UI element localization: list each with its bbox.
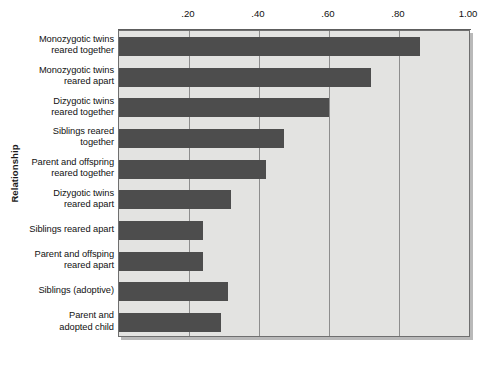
category-label-line: Parent and offspring [4, 157, 114, 168]
category-label-line: reared apart [4, 76, 114, 87]
category-label-line: reared together [4, 168, 114, 179]
x-tick-label: .80 [391, 8, 404, 19]
bar [119, 282, 228, 301]
category-label-line: Parent and offsping [4, 249, 114, 260]
bar [119, 98, 329, 117]
category-label: Siblings rearedtogether [4, 126, 114, 148]
bar [119, 252, 203, 271]
category-label: Monozygotic twinsreared apart [4, 65, 114, 87]
category-label-line: Parent and [4, 310, 114, 321]
bar [119, 160, 266, 179]
bar [119, 68, 371, 87]
category-label-line: Siblings reared apart [4, 224, 114, 235]
category-label-line: reared apart [4, 260, 114, 271]
gridline-80 [399, 31, 400, 336]
bar [119, 37, 420, 56]
category-label: Parent andadopted child [4, 310, 114, 332]
category-label: Parent and offspingreared apart [4, 249, 114, 271]
category-label-line: Siblings (adoptive) [4, 285, 114, 296]
category-label-line: reared apart [4, 199, 114, 210]
x-tick-label: .20 [181, 8, 194, 19]
category-label-line: Monozygotic twins [4, 65, 114, 76]
category-label-line: Dizygotic twins [4, 188, 114, 199]
category-label-column: Monozygotic twinsreared togetherMonozygo… [4, 31, 114, 337]
bar [119, 129, 284, 148]
category-label-line: Siblings reared [4, 126, 114, 137]
gridline-100 [469, 31, 470, 336]
category-label-line: reared together [4, 45, 114, 56]
category-label-line: together [4, 137, 114, 148]
category-label-line: Dizygotic twins [4, 96, 114, 107]
category-label: Siblings reared apart [4, 224, 114, 235]
category-label: Dizygotic twinsreared together [4, 96, 114, 118]
x-tick-label: .40 [251, 8, 264, 19]
correlation-bar-chart: Relationship Monozygotic twinsreared tog… [0, 0, 483, 367]
x-tick-label: .60 [321, 8, 334, 19]
plot-area [118, 30, 470, 337]
bar [119, 221, 203, 240]
category-label: Dizygotic twinsreared apart [4, 188, 114, 210]
category-label-line: reared together [4, 107, 114, 118]
category-label-line: adopted child [4, 322, 114, 333]
category-label: Monozygotic twinsreared together [4, 34, 114, 56]
category-label-line: Monozygotic twins [4, 34, 114, 45]
category-label: Parent and offspringreared together [4, 157, 114, 179]
bar [119, 190, 231, 209]
x-tick-label: 1.00 [459, 8, 478, 19]
category-label: Siblings (adoptive) [4, 285, 114, 296]
x-axis-tick-labels: .20.40.60.801.00 [118, 8, 470, 26]
bar [119, 313, 221, 332]
